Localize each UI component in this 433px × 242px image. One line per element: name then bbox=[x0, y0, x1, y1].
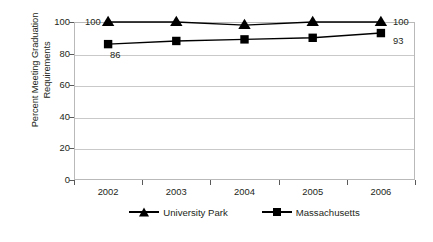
y-tick-label-0: 0 bbox=[44, 175, 70, 184]
y-tick-label-40: 40 bbox=[44, 112, 70, 121]
x-tick-label-2005: 2005 bbox=[283, 186, 343, 197]
data-label-up-2006: 100 bbox=[393, 17, 409, 27]
x-tickmark-0 bbox=[74, 180, 75, 185]
plot-area bbox=[74, 22, 415, 180]
x-tickmark-4 bbox=[347, 180, 348, 185]
x-tick-label-2002: 2002 bbox=[78, 186, 138, 197]
chart-legend: University Park Massachusetts bbox=[74, 206, 415, 218]
y-tick-label-100: 100 bbox=[44, 17, 70, 26]
gridline-60 bbox=[75, 86, 414, 87]
x-tick-label-2006: 2006 bbox=[351, 186, 411, 197]
x-tickmark-2 bbox=[210, 180, 211, 185]
line-chart: Percent Meeting Graduation Requirements … bbox=[0, 0, 433, 242]
y-axis-title-line-1: Percent Meeting Graduation bbox=[29, 13, 41, 128]
data-label-ma-2006: 93 bbox=[393, 36, 403, 46]
y-axis-tick-labels: 100 80 60 40 20 0 bbox=[44, 0, 70, 242]
y-tick-label-60: 60 bbox=[44, 80, 70, 89]
data-label-up-2002: 100 bbox=[85, 17, 101, 27]
x-tick-label-2004: 2004 bbox=[215, 186, 275, 197]
legend-entry-university-park: University Park bbox=[129, 206, 228, 218]
legend-label-university-park: University Park bbox=[163, 207, 228, 218]
gridline-80 bbox=[75, 55, 414, 56]
legend-entry-massachusetts: Massachusetts bbox=[262, 206, 360, 218]
triangle-marker-icon bbox=[139, 207, 149, 216]
gridline-20 bbox=[75, 149, 414, 150]
gridline-40 bbox=[75, 118, 414, 119]
legend-key-square bbox=[262, 206, 292, 218]
x-tick-label-2003: 2003 bbox=[146, 186, 206, 197]
legend-key-triangle bbox=[129, 206, 159, 218]
x-tickmark-3 bbox=[279, 180, 280, 185]
y-tick-label-20: 20 bbox=[44, 144, 70, 153]
y-tick-label-80: 80 bbox=[44, 49, 70, 58]
data-label-ma-2002: 86 bbox=[110, 50, 120, 60]
x-tickmark-1 bbox=[142, 180, 143, 185]
x-tickmark-5 bbox=[415, 180, 416, 185]
square-marker-icon bbox=[273, 208, 281, 216]
legend-label-massachusetts: Massachusetts bbox=[296, 207, 360, 218]
